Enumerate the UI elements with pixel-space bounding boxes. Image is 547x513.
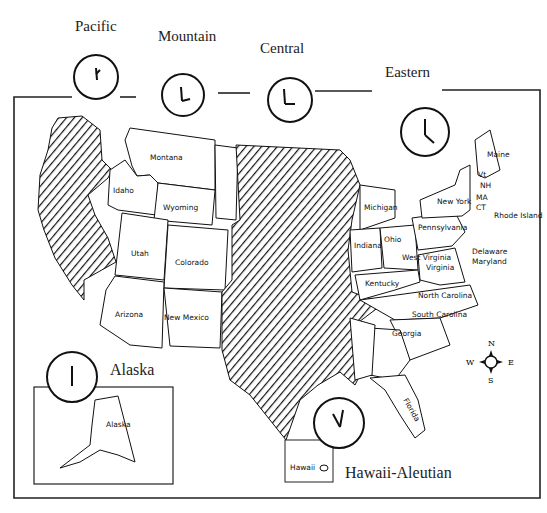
state-label-rhode-island: Rhode Island: [494, 211, 543, 220]
state-label-pennsylvania: Pennsylvania: [418, 223, 467, 232]
zone-label-eastern: Eastern: [385, 64, 430, 81]
state-label-virginia: Virginia: [426, 263, 454, 272]
zone-label-mountain: Mountain: [158, 28, 216, 45]
compass-w: W: [466, 358, 475, 367]
state-label-wyoming: Wyoming: [163, 203, 198, 212]
state-label-ma: MA: [476, 193, 488, 202]
state-label-kentucky: Kentucky: [365, 279, 400, 288]
state-label-georgia: Georgia: [392, 329, 421, 338]
state-label-maryland: Maryland: [472, 257, 507, 266]
state-label-new-york: New York: [437, 197, 472, 206]
clock-alaska: [47, 352, 97, 402]
clock-hawaii: [314, 398, 364, 448]
clock-central: [268, 78, 312, 122]
clock-eastern: [401, 108, 449, 156]
hawaii-inset: Hawaii Hawaii-Aleutian: [285, 440, 452, 482]
state-label-new-mexico: New Mexico: [164, 313, 209, 322]
state-label-west-virginia: West Virginia: [402, 253, 451, 262]
compass-rose: N S E W: [466, 339, 514, 385]
state-label-utah: Utah: [131, 249, 149, 258]
state-label-delaware: Delaware: [472, 247, 508, 256]
state-label-hawaii: Hawaii: [290, 463, 315, 472]
state-label-north-carolina: North Carolina: [418, 291, 472, 300]
pacific-zone-region: [38, 116, 116, 300]
state-label-alaska: Alaska: [106, 420, 131, 429]
state-label-vt: Vt: [478, 170, 486, 179]
state-label-ct: CT: [476, 203, 486, 212]
clock-mountain: [162, 74, 204, 116]
state-label-arizona: Arizona: [115, 310, 143, 319]
state-label-ohio: Ohio: [384, 235, 402, 244]
compass-e: E: [508, 358, 514, 367]
clock-pacific: [74, 55, 118, 99]
compass-n: N: [488, 339, 495, 348]
zone-label-pacific: Pacific: [75, 18, 117, 35]
time-zone-map: Alaska Alaska Hawaii Hawaii-Aleutian N S: [0, 0, 547, 513]
state-label-indiana: Indiana: [354, 241, 382, 250]
state-label-colorado: Colorado: [175, 258, 209, 267]
alaska-title: Alaska: [110, 361, 154, 378]
state-label-nh: NH: [480, 181, 491, 190]
state-label-maine: Maine: [487, 150, 510, 159]
state-label-idaho: Idaho: [113, 186, 134, 195]
state-label-michigan: Michigan: [364, 203, 398, 212]
zone-label-central: Central: [260, 40, 304, 57]
hawaii-title: Hawaii-Aleutian: [345, 464, 452, 481]
state-label-south-carolina: South Carolina: [412, 310, 467, 319]
compass-s: S: [488, 376, 493, 385]
state-label-montana: Montana: [150, 153, 183, 162]
